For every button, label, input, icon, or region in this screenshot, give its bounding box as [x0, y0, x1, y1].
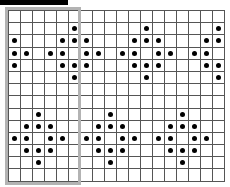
grid-cell[interactable] [189, 60, 201, 72]
grid-cell[interactable] [45, 60, 57, 72]
grid-cell-filled[interactable] [177, 109, 189, 121]
grid-cell[interactable] [21, 60, 33, 72]
grid-cell-filled[interactable] [165, 133, 177, 145]
grid-cell[interactable] [141, 169, 153, 181]
grid-cell-filled[interactable] [105, 157, 117, 169]
grid-cell[interactable] [153, 11, 165, 23]
grid-cell[interactable] [21, 157, 33, 169]
grid-cell[interactable] [57, 23, 69, 35]
grid-cell[interactable] [33, 72, 45, 84]
grid-cell[interactable] [9, 145, 21, 157]
grid-cell[interactable] [129, 145, 141, 157]
grid-cell[interactable] [201, 84, 213, 96]
grid-cell[interactable] [45, 35, 57, 47]
grid-cell-filled[interactable] [153, 133, 165, 145]
grid-cell[interactable] [9, 72, 21, 84]
grid-cell[interactable] [141, 84, 153, 96]
grid-cell[interactable] [153, 121, 165, 133]
grid-cell-filled[interactable] [105, 145, 117, 157]
grid-cell[interactable] [69, 157, 81, 169]
grid-cell[interactable] [93, 96, 105, 108]
grid-cell[interactable] [9, 11, 21, 23]
grid-cell[interactable] [69, 133, 81, 145]
grid-cell-filled[interactable] [9, 60, 21, 72]
grid-cell[interactable] [129, 121, 141, 133]
grid-cell-filled[interactable] [189, 121, 201, 133]
grid-cell-filled[interactable] [165, 121, 177, 133]
grid-cell[interactable] [117, 72, 129, 84]
grid-cell[interactable] [45, 23, 57, 35]
grid-cell[interactable] [177, 169, 189, 181]
grid-cell[interactable] [105, 23, 117, 35]
grid-cell[interactable] [9, 23, 21, 35]
grid-cell[interactable] [9, 109, 21, 121]
grid-cell-filled[interactable] [201, 133, 213, 145]
grid-cell-filled[interactable] [45, 145, 57, 157]
grid-cell[interactable] [153, 145, 165, 157]
grid-cell-filled[interactable] [57, 133, 69, 145]
grid-cell[interactable] [81, 72, 93, 84]
grid-cell-filled[interactable] [189, 133, 201, 145]
grid-cell[interactable] [69, 48, 81, 60]
grid-cell[interactable] [33, 84, 45, 96]
grid-cell[interactable] [129, 109, 141, 121]
grid-cell[interactable] [57, 96, 69, 108]
grid-cell[interactable] [45, 157, 57, 169]
grid-cell[interactable] [21, 84, 33, 96]
grid-cell[interactable] [93, 109, 105, 121]
grid-cell[interactable] [93, 60, 105, 72]
grid-cell[interactable] [189, 169, 201, 181]
grid-cell-filled[interactable] [165, 145, 177, 157]
grid-cell[interactable] [189, 23, 201, 35]
grid-cell[interactable] [213, 96, 225, 108]
grid-cell[interactable] [69, 96, 81, 108]
grid-cell[interactable] [129, 169, 141, 181]
grid-cell[interactable] [117, 60, 129, 72]
grid-cell[interactable] [33, 133, 45, 145]
grid-cell[interactable] [165, 11, 177, 23]
grid-cell[interactable] [21, 35, 33, 47]
grid-cell-filled[interactable] [201, 60, 213, 72]
grid-cell-filled[interactable] [9, 48, 21, 60]
grid-cell[interactable] [177, 72, 189, 84]
grid-cell[interactable] [93, 72, 105, 84]
grid-cell[interactable] [141, 157, 153, 169]
grid-cell-filled[interactable] [45, 121, 57, 133]
grid-cell-filled[interactable] [117, 133, 129, 145]
grid-cell[interactable] [201, 109, 213, 121]
grid-cell-filled[interactable] [69, 23, 81, 35]
grid-cell[interactable] [57, 169, 69, 181]
grid-cell[interactable] [45, 96, 57, 108]
grid-cell-filled[interactable] [141, 35, 153, 47]
grid-cell-filled[interactable] [177, 157, 189, 169]
grid-cell[interactable] [21, 169, 33, 181]
grid-cell-filled[interactable] [201, 48, 213, 60]
grid-cell[interactable] [81, 169, 93, 181]
grid-cell-filled[interactable] [201, 35, 213, 47]
grid-cell[interactable] [33, 96, 45, 108]
grid-cell[interactable] [33, 11, 45, 23]
grid-cell[interactable] [105, 48, 117, 60]
grid-cell[interactable] [117, 84, 129, 96]
grid-cell-filled[interactable] [141, 23, 153, 35]
grid-cell-filled[interactable] [33, 145, 45, 157]
grid-cell[interactable] [9, 121, 21, 133]
grid-cell-filled[interactable] [69, 72, 81, 84]
grid-cell[interactable] [81, 157, 93, 169]
grid-cell[interactable] [141, 96, 153, 108]
grid-cell[interactable] [201, 72, 213, 84]
grid-cell[interactable] [213, 145, 225, 157]
grid-cell-filled[interactable] [177, 121, 189, 133]
grid-cell[interactable] [129, 11, 141, 23]
grid-cell[interactable] [165, 23, 177, 35]
grid-cell-filled[interactable] [189, 145, 201, 157]
grid-cell[interactable] [201, 157, 213, 169]
grid-cell[interactable] [141, 11, 153, 23]
grid-cell[interactable] [129, 84, 141, 96]
grid-cell[interactable] [93, 157, 105, 169]
grid-cell-filled[interactable] [57, 60, 69, 72]
grid-cell-filled[interactable] [105, 121, 117, 133]
grid-cell[interactable] [129, 23, 141, 35]
grid-cell[interactable] [201, 23, 213, 35]
grid-cell-filled[interactable] [33, 109, 45, 121]
